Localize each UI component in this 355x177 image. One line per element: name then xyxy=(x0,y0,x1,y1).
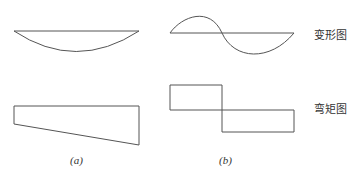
caption-b: (b) xyxy=(219,154,232,166)
diagram-canvas xyxy=(0,0,355,177)
caption-a: (a) xyxy=(70,154,83,166)
deformation-diagram-a xyxy=(14,31,139,52)
deformation-label: 变形图 xyxy=(314,26,347,42)
moment-diagram-a xyxy=(14,106,139,145)
moment-label: 弯矩图 xyxy=(314,100,347,116)
moment-diagram-b xyxy=(170,85,294,132)
deformation-diagram-b xyxy=(170,16,294,54)
